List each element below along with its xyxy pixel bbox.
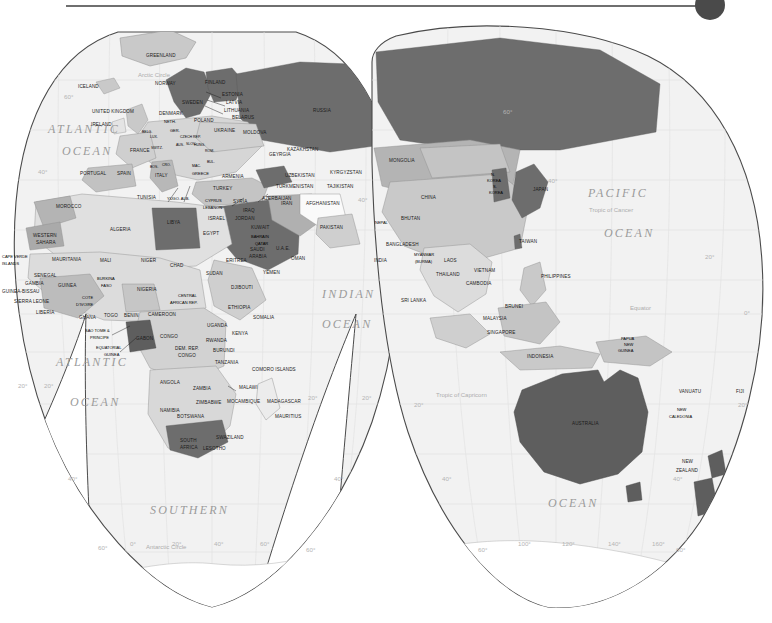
map-label: RUSSIA bbox=[313, 108, 332, 113]
geo-label-tropic-of-capricorn: Tropic of Capricorn bbox=[436, 392, 487, 398]
map-label: CONGO bbox=[178, 353, 196, 358]
map-label: CYPRUS bbox=[205, 198, 222, 203]
lat-mid-60s: 60° bbox=[306, 546, 316, 553]
lat-right-40s-b: 40° bbox=[673, 475, 683, 482]
lat-right-40: 40° bbox=[548, 177, 558, 184]
map-label: PORTUGAL bbox=[80, 171, 106, 176]
geo-label-equator: Equator bbox=[630, 305, 651, 311]
lon-bottom-20: 20° bbox=[172, 540, 182, 547]
map-label: SUDAN bbox=[206, 271, 223, 276]
map-label: TAIWAN bbox=[519, 239, 537, 244]
map-label: PRINCIPE bbox=[90, 335, 109, 340]
map-label: CONGO bbox=[160, 334, 178, 339]
horizontal-rule bbox=[66, 5, 706, 7]
map-label: DENMARK bbox=[159, 111, 184, 116]
map-label: U.A.E. bbox=[276, 246, 290, 251]
map-label: SAUDI bbox=[250, 247, 265, 252]
map-label: MALAYSIA bbox=[483, 316, 507, 321]
map-label: AUS. bbox=[176, 143, 184, 147]
map-label: CRO. bbox=[162, 163, 171, 167]
world-map[interactable]: Arctic Circle Tropic of Cancer Equator T… bbox=[0, 22, 772, 623]
map-label: GUINEA bbox=[58, 283, 77, 288]
map-label: BOS. bbox=[150, 165, 158, 169]
map-label: SWAZILAND bbox=[216, 435, 244, 440]
world-map-svg[interactable]: Arctic Circle Tropic of Cancer Equator T… bbox=[0, 22, 772, 623]
map-label: LIBERIA bbox=[36, 310, 55, 315]
map-label: MOLDOVA bbox=[243, 130, 267, 135]
map-label: UNITED KINGDOM bbox=[92, 109, 134, 114]
map-label: MALI bbox=[100, 258, 111, 263]
map-label: FASO bbox=[101, 283, 112, 288]
lat-mid-40s: 40° bbox=[334, 475, 344, 482]
map-label: CHINA bbox=[421, 195, 437, 200]
map-label: BAHRAIN bbox=[251, 234, 269, 239]
map-label: D'IVOIRE bbox=[76, 302, 94, 307]
lon-bottom-160: 160° bbox=[652, 540, 665, 547]
map-label: BANGLADESH bbox=[386, 242, 419, 247]
lat-left-40s: 40° bbox=[68, 475, 78, 482]
map-label: RWANDA bbox=[206, 338, 228, 343]
map-label: TANZANIA bbox=[215, 360, 239, 365]
map-label: PAPUA bbox=[621, 336, 635, 341]
map-label: ERITREA bbox=[226, 258, 248, 263]
map-label: SINGAPORE bbox=[487, 330, 515, 335]
map-label: SYRIA bbox=[233, 199, 248, 204]
map-label: PAKISTAN bbox=[320, 225, 343, 230]
map-label: FIJI bbox=[736, 389, 744, 394]
map-label: EQUATORIAL bbox=[96, 345, 122, 350]
map-label: UGANDA bbox=[207, 323, 228, 328]
map-label: GREECE bbox=[192, 171, 209, 176]
map-label: FINLAND bbox=[205, 80, 226, 85]
map-label: QATAR bbox=[255, 241, 268, 246]
lat-left-40: 40° bbox=[38, 168, 48, 175]
map-label: COTE bbox=[82, 295, 93, 300]
map-label: BENIN bbox=[124, 313, 139, 318]
map-label: MONGOLIA bbox=[389, 158, 416, 163]
map-label: TURKEY bbox=[213, 186, 232, 191]
map-label: EGYPT bbox=[203, 231, 219, 236]
map-label: NEPAL bbox=[375, 220, 389, 225]
map-label: SOMALIA bbox=[253, 315, 275, 320]
lat-mid-20s: 20° bbox=[308, 394, 318, 401]
geo-label-arctic-circle: Arctic Circle bbox=[138, 72, 171, 78]
map-label: BELARUS bbox=[232, 115, 254, 120]
map-label: POLAND bbox=[194, 118, 214, 123]
map-label: COMORO ISLANDS bbox=[252, 367, 296, 372]
map-label: THAILAND bbox=[436, 272, 460, 277]
lat-right-60s: 60° bbox=[478, 546, 488, 553]
map-label: SRI LANKA bbox=[401, 298, 427, 303]
map-label: JAPAN bbox=[533, 187, 548, 192]
map-label: CAMBODIA bbox=[466, 281, 492, 286]
lat-left-60s: 60° bbox=[98, 544, 108, 551]
map-label: NAMIBIA bbox=[160, 408, 181, 413]
map-label: CHAD bbox=[170, 263, 184, 268]
map-label: JORDAN bbox=[235, 216, 255, 221]
map-label: NEW bbox=[624, 342, 634, 347]
map-label: CALEDONIA bbox=[669, 414, 692, 419]
lat-left-20s: 20° bbox=[18, 382, 28, 389]
map-label: ARMENIA bbox=[222, 174, 245, 179]
map-label: SENEGAL bbox=[34, 273, 57, 278]
ocean-southern-line1: SOUTHERN bbox=[150, 503, 229, 517]
map-label: HUNG. bbox=[194, 143, 205, 147]
map-label: LUX. bbox=[150, 135, 158, 139]
map-label: SWEDEN bbox=[182, 100, 203, 105]
map-label: LESOTHO bbox=[203, 446, 226, 451]
lat-mid-20s-b: 20° bbox=[362, 394, 372, 401]
map-label: TOGO bbox=[104, 313, 118, 318]
map-label: S. bbox=[493, 184, 497, 189]
map-label: UKRAINE bbox=[214, 128, 235, 133]
map-label: ETHIOPIA bbox=[228, 305, 251, 310]
map-label: ICELAND bbox=[78, 84, 99, 89]
map-label: LAOS bbox=[444, 258, 457, 263]
map-label: MADAGASCAR bbox=[267, 399, 301, 404]
map-label: WESTERN bbox=[33, 233, 57, 238]
map-label: KAZAKHSTAN bbox=[287, 147, 319, 152]
circle-marker[interactable] bbox=[695, 0, 725, 20]
map-label: UZBEKISTAN bbox=[285, 173, 315, 178]
map-label: BELG. bbox=[142, 130, 152, 134]
map-label: DJIBOUTI bbox=[231, 285, 253, 290]
lat-right-40s: 40° bbox=[442, 475, 452, 482]
map-label: DEM. REP. bbox=[175, 346, 199, 351]
lon-bottom-60: 60° bbox=[260, 540, 270, 547]
